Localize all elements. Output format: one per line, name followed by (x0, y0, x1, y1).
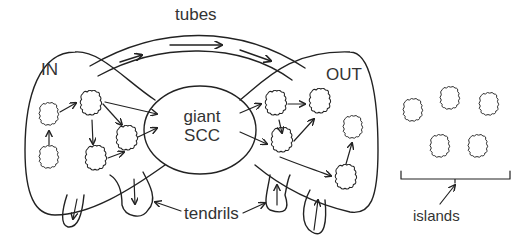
islands (401, 86, 510, 204)
island-node (468, 134, 488, 157)
island-node (430, 134, 450, 157)
islands-brace (401, 171, 510, 183)
giant-scc-label-line2: SCC (182, 127, 222, 144)
in-node (39, 145, 59, 168)
island-node (403, 98, 423, 121)
in-node (39, 102, 59, 125)
out-nodes (240, 88, 363, 189)
tubes-label: tubes (175, 6, 217, 23)
out-node (309, 88, 330, 113)
in-label: IN (41, 61, 58, 78)
in-node (116, 125, 137, 150)
out-node (343, 115, 363, 138)
in-node (80, 90, 101, 115)
in-nodes (39, 90, 157, 170)
out-node (335, 164, 356, 189)
island-node (440, 86, 460, 109)
in-node (85, 145, 106, 170)
out-node (265, 90, 286, 115)
giant-scc-label-line1: giant (182, 108, 222, 125)
island-node (479, 92, 499, 115)
tendrils-label: tendrils (184, 205, 239, 222)
out-label: OUT (326, 66, 362, 83)
islands-label: islands (413, 208, 460, 223)
